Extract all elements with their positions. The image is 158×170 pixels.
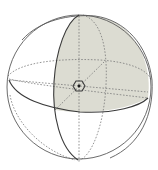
center-point xyxy=(78,85,81,88)
sphere-diagram xyxy=(0,0,158,170)
shaded-octant xyxy=(54,15,149,112)
diagram-canvas: Sphere with great circles and shaded oct… xyxy=(0,0,158,170)
